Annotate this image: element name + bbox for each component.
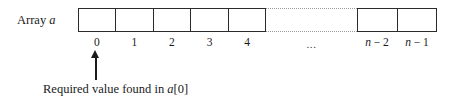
index-label-n-minus-2: n − 2 xyxy=(357,36,397,49)
dotted-connector-bottom xyxy=(266,31,357,32)
caption-suffix: [0] xyxy=(174,82,189,96)
array-cells-left xyxy=(78,8,266,32)
array-cell xyxy=(154,9,191,31)
index-label-4: 4 xyxy=(228,36,266,49)
pointer-arrow-shaft xyxy=(95,57,97,80)
array-cell xyxy=(358,9,398,31)
array-label-text: Array xyxy=(17,13,46,27)
ellipsis-label: ... xyxy=(286,38,337,51)
index-label-n-minus-1: n − 1 xyxy=(397,36,437,49)
array-cell xyxy=(79,9,116,31)
array-cell xyxy=(229,9,265,31)
array-cell xyxy=(116,9,153,31)
array-label-variable: a xyxy=(49,13,55,27)
index-label-3: 3 xyxy=(191,36,229,49)
index-label-1: 1 xyxy=(116,36,154,49)
array-cell xyxy=(398,9,437,31)
index-label-0: 0 xyxy=(78,36,116,49)
array-cell xyxy=(191,9,228,31)
index-offset: − 2 xyxy=(371,36,389,48)
dotted-connector-top xyxy=(266,8,357,9)
array-search-figure: Array a 0 1 2 3 4 ... n − 2 n − 1 Requir… xyxy=(0,0,451,102)
index-label-2: 2 xyxy=(153,36,191,49)
caption-prefix: Required value found in xyxy=(43,82,167,96)
pointer-caption: Required value found in a[0] xyxy=(43,82,188,97)
index-offset: − 1 xyxy=(411,36,429,48)
array-cells-right xyxy=(357,8,437,32)
array-label: Array a xyxy=(17,13,56,27)
